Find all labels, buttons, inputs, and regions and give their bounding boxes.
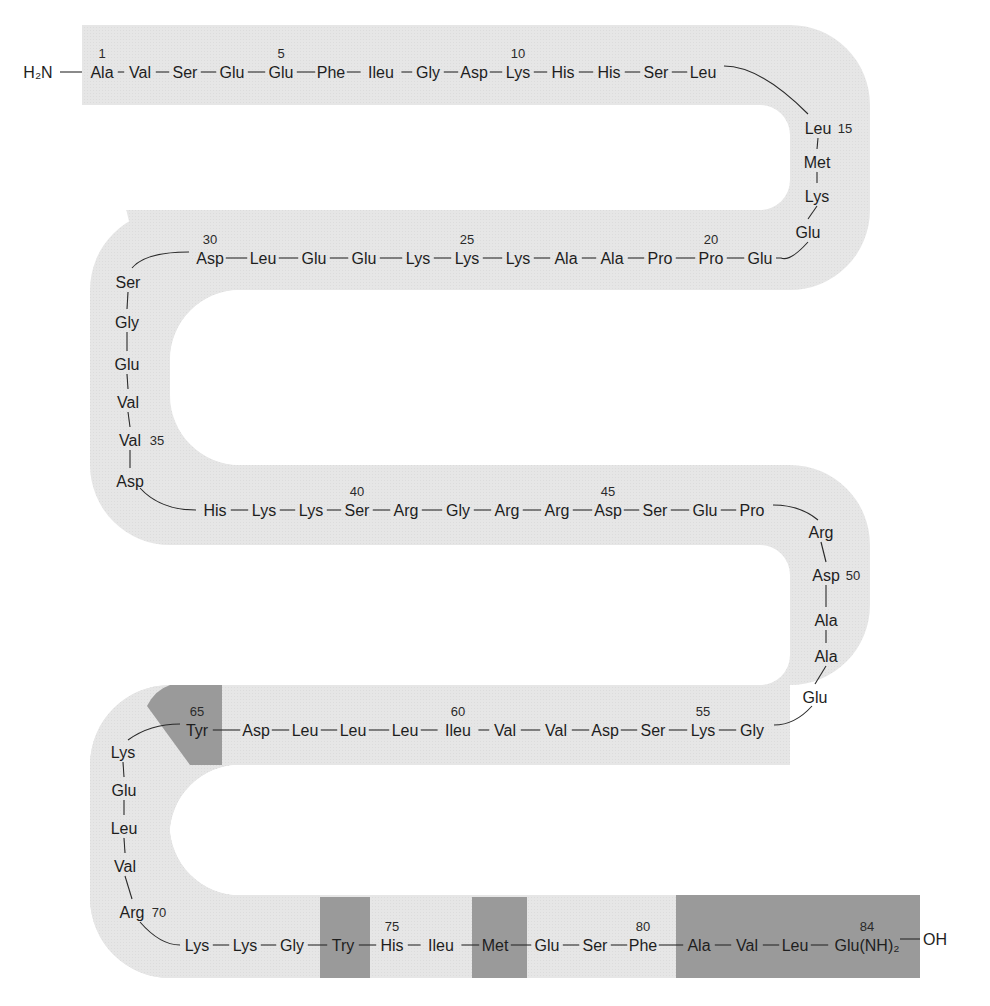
inner-hole-4-block xyxy=(240,765,990,895)
residue-23: Ala xyxy=(554,250,577,267)
residue-80: Phe xyxy=(629,937,658,954)
residue-60: Ileu xyxy=(445,722,471,739)
inner-hole-2-right xyxy=(870,290,990,465)
residue-16: Met xyxy=(804,154,831,171)
residue-75: His xyxy=(380,937,403,954)
residue-44: Arg xyxy=(545,502,570,519)
position-label-20: 20 xyxy=(704,232,718,247)
position-label-10: 10 xyxy=(511,46,525,61)
position-label-1: 1 xyxy=(98,46,105,61)
residue-54: Gly xyxy=(740,722,764,739)
residue-38: Lys xyxy=(252,502,276,519)
residue-13: Ser xyxy=(644,64,670,81)
residue-12: His xyxy=(597,64,620,81)
residue-55: Lys xyxy=(691,722,715,739)
residue-77: Met xyxy=(482,937,509,954)
residue-66: Lys xyxy=(111,744,135,761)
position-label-30: 30 xyxy=(203,232,217,247)
residue-62: Leu xyxy=(340,722,367,739)
residue-22: Ala xyxy=(600,250,623,267)
residue-81: Ala xyxy=(687,937,710,954)
residue-5: Glu xyxy=(269,64,294,81)
residue-59: Val xyxy=(494,722,516,739)
position-label-40: 40 xyxy=(350,484,364,499)
residue-82: Val xyxy=(736,937,758,954)
residue-4: Glu xyxy=(220,64,245,81)
n-terminus-label: H₂N xyxy=(23,64,52,81)
residue-71: Lys xyxy=(185,937,209,954)
residue-32: Gly xyxy=(115,314,139,331)
residue-21: Pro xyxy=(648,250,673,267)
position-label-70: 70 xyxy=(152,905,166,920)
residue-58: Val xyxy=(545,722,567,739)
residue-20: Pro xyxy=(699,250,724,267)
residue-26: Lys xyxy=(406,250,430,267)
residue-46: Ser xyxy=(643,502,669,519)
residue-43: Arg xyxy=(495,502,520,519)
residue-56: Ser xyxy=(641,722,667,739)
residue-42: Gly xyxy=(446,502,470,519)
position-label-50: 50 xyxy=(846,568,860,583)
residue-76: Ileu xyxy=(428,937,454,954)
position-label-84: 84 xyxy=(860,919,874,934)
position-label-60: 60 xyxy=(451,704,465,719)
c-terminus-label: OH xyxy=(923,931,947,948)
residue-79: Ser xyxy=(583,937,609,954)
inner-hole-2 xyxy=(170,290,990,465)
residue-72: Lys xyxy=(233,937,257,954)
residue-52: Ala xyxy=(814,648,837,665)
residue-65: Tyr xyxy=(186,722,209,739)
residue-24: Lys xyxy=(506,250,530,267)
position-label-55: 55 xyxy=(696,704,710,719)
residue-45: Asp xyxy=(594,502,622,519)
position-label-80: 80 xyxy=(636,919,650,934)
position-label-75: 75 xyxy=(385,919,399,934)
residue-50: Asp xyxy=(812,567,840,584)
residue-11: His xyxy=(551,64,574,81)
position-label-35: 35 xyxy=(150,433,164,448)
residue-61: Leu xyxy=(392,722,419,739)
residue-10: Lys xyxy=(506,64,530,81)
residue-47: Glu xyxy=(693,502,718,519)
residue-34: Val xyxy=(117,394,139,411)
residue-2: Val xyxy=(129,64,151,81)
residue-40: Ser xyxy=(345,502,371,519)
residue-8: Gly xyxy=(416,64,440,81)
residue-41: Arg xyxy=(394,502,419,519)
residue-48: Pro xyxy=(740,502,765,519)
peptide-sequence-diagram: H₂NAla1ValSerGluGlu5PheIleuGlyAspLys10Hi… xyxy=(0,0,990,1006)
position-label-5: 5 xyxy=(277,46,284,61)
residue-51: Ala xyxy=(814,612,837,629)
residue-6: Phe xyxy=(317,64,346,81)
residue-57: Asp xyxy=(591,722,619,739)
residue-74: Try xyxy=(332,937,355,954)
residue-36: Asp xyxy=(116,473,144,490)
residue-69: Val xyxy=(114,858,136,875)
position-label-45: 45 xyxy=(601,484,615,499)
position-label-65: 65 xyxy=(190,704,204,719)
inner-hole-3 xyxy=(82,545,790,685)
residue-63: Leu xyxy=(292,722,319,739)
residue-70: Arg xyxy=(120,904,145,921)
residue-83: Leu xyxy=(782,937,809,954)
residue-9: Asp xyxy=(460,64,488,81)
residue-7: Ileu xyxy=(368,64,394,81)
residue-33: Glu xyxy=(115,356,140,373)
residue-35: Val xyxy=(119,432,141,449)
residue-68: Leu xyxy=(111,820,138,837)
residue-18: Glu xyxy=(796,224,821,241)
residue-19: Glu xyxy=(748,250,773,267)
residue-31: Ser xyxy=(116,274,142,291)
residue-39: Lys xyxy=(299,502,323,519)
residue-37: His xyxy=(203,502,226,519)
residue-64: Asp xyxy=(242,722,270,739)
residue-3: Ser xyxy=(173,64,199,81)
residue-49: Arg xyxy=(809,524,834,541)
residue-27: Glu xyxy=(352,250,377,267)
residue-14: Leu xyxy=(690,64,717,81)
residue-28: Glu xyxy=(302,250,327,267)
residue-67: Glu xyxy=(112,782,137,799)
residue-25: Lys xyxy=(455,250,479,267)
outer-left-1 xyxy=(0,105,82,210)
residue-17: Lys xyxy=(805,188,829,205)
